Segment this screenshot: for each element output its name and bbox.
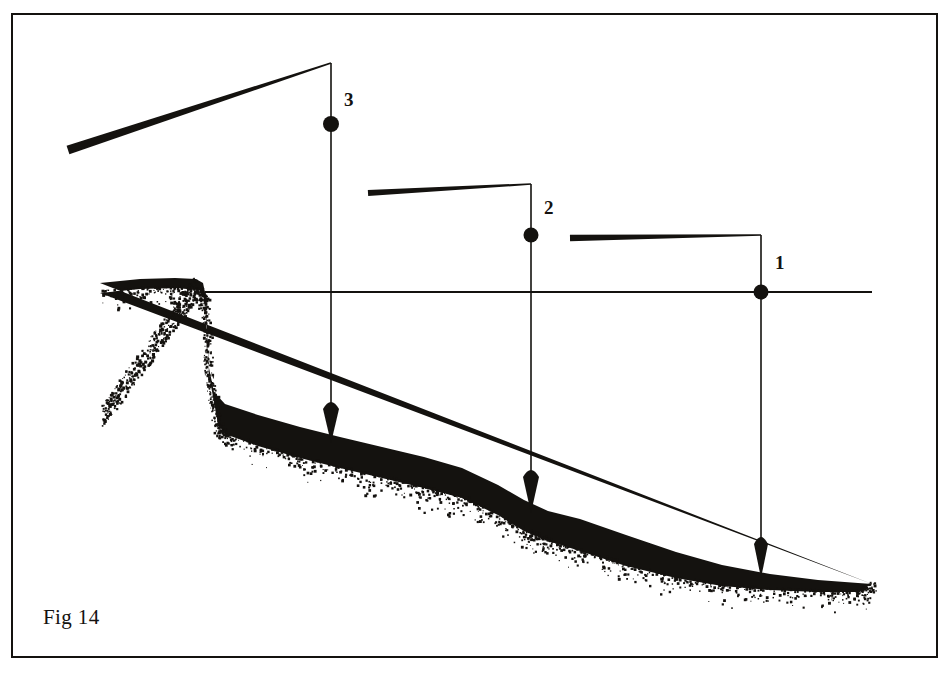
figure-caption: Fig 14 [43,605,100,630]
station-label-3: 3 [344,89,354,111]
figure-border-frame [11,13,938,658]
station-label-1: 1 [775,252,785,274]
station-label-2: 2 [544,197,554,219]
figure-page: 1 2 3 Fig 14 [0,0,950,673]
